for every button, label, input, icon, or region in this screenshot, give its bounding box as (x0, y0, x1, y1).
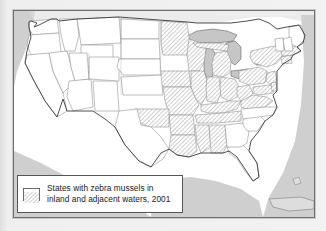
state-kansas (121, 75, 163, 95)
state-iowa (160, 71, 191, 87)
state-arizona (67, 79, 93, 111)
state-alabama (209, 125, 227, 153)
state-oregon (27, 33, 61, 55)
state-nebraska (117, 59, 161, 75)
state-kentucky (201, 101, 241, 113)
state-colorado (89, 57, 119, 81)
state-florida (227, 145, 259, 181)
state-ohio (220, 77, 239, 101)
state-indiana (206, 77, 221, 103)
state-michigan-lower (212, 51, 231, 77)
state-new-hampshire (283, 37, 293, 51)
map-screenshot: States with zebra mussels in inland and … (0, 0, 326, 231)
state-louisiana (169, 135, 197, 157)
state-north-carolina (241, 107, 277, 119)
state-montana (77, 17, 121, 45)
map-legend: States with zebra mussels in inland and … (17, 175, 183, 213)
state-north-dakota (121, 19, 159, 39)
state-delaware (271, 82, 277, 91)
state-idaho (59, 19, 79, 51)
state-arkansas (169, 115, 195, 135)
legend-label-line-1: States with zebra mussels in (47, 183, 170, 194)
map-frame: States with zebra mussels in inland and … (13, 10, 315, 218)
legend-label-line-2: inland and adjacent waters, 2001 (47, 194, 170, 205)
legend-label: States with zebra mussels in inland and … (47, 183, 170, 205)
state-south-dakota (121, 39, 160, 59)
hatched-pattern-swatch (23, 188, 40, 201)
state-mississippi (195, 125, 211, 153)
state-new-mexico (93, 81, 119, 111)
state-vermont (275, 38, 284, 51)
state-minnesota (161, 21, 191, 55)
